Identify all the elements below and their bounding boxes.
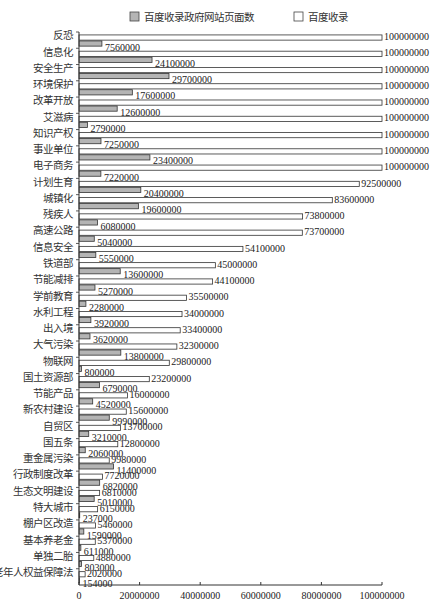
value-label-baidu: 23200000: [151, 373, 191, 384]
bar-baidu: [79, 51, 382, 56]
bar-baidu: [79, 116, 382, 121]
value-label-baidu: 44100000: [215, 275, 255, 286]
value-label-baidu: 100000000: [384, 31, 429, 42]
bar-baidu: [79, 100, 382, 105]
category-label: 反恐: [53, 29, 74, 41]
value-label-baidu: 100000000: [384, 64, 429, 75]
category-label: 大气污染: [33, 338, 74, 350]
bar-baidu: [79, 295, 187, 300]
bar-gov-pages: [79, 350, 121, 355]
bar-baidu: [79, 425, 121, 430]
legend: 百度收录政府网站页面数 百度收录: [130, 11, 348, 23]
category-label: 计划生育: [33, 176, 73, 188]
category-label: 事业单位: [33, 143, 74, 155]
value-label-baidu: 6810000: [102, 487, 137, 498]
category-label: 节能减排: [33, 273, 74, 285]
bar-gov-pages: [79, 187, 141, 192]
bar-gov-pages: [79, 431, 89, 436]
category-label: 重金属污染: [23, 452, 74, 464]
bar-gov-pages: [79, 382, 100, 387]
category-label: 环境保护: [33, 78, 73, 90]
category-label: 基本养老金: [23, 534, 74, 546]
bar-baidu: [79, 458, 109, 463]
bar-gov-pages: [79, 415, 109, 420]
category-label: 物联网: [43, 355, 73, 367]
value-label-baidu: 32300000: [179, 340, 219, 351]
value-label-baidu: 100000000: [384, 96, 429, 107]
category-label: 城镇化: [43, 192, 74, 204]
value-label-baidu: 100000000: [384, 145, 429, 156]
bar-baidu: [79, 149, 382, 154]
category-label: 改革开放: [33, 94, 74, 106]
category-label: 残疾人: [43, 208, 74, 220]
bar-gov-pages: [79, 269, 120, 274]
value-label-baidu: 29800000: [171, 356, 211, 367]
bar-gov-pages: [79, 171, 101, 176]
bar-baidu: [79, 214, 303, 219]
value-label-baidu: 100000000: [384, 47, 429, 58]
x-tick-label: 80000000: [301, 590, 341, 601]
bar-baidu: [79, 67, 382, 72]
category-label: 学前教育: [33, 290, 73, 302]
value-label-baidu: 4880000: [96, 552, 131, 563]
bar-gov-pages: [79, 529, 84, 534]
category-label: 安全生产: [33, 62, 73, 74]
value-label-baidu: 2020000: [87, 568, 122, 579]
bar-gov-pages: [79, 236, 94, 241]
category-label: 国土资源部: [23, 371, 73, 383]
bar-gov-pages: [79, 334, 90, 339]
bar-baidu: [79, 360, 169, 365]
bar-gov-pages: [79, 252, 96, 257]
x-tick-label: 40000000: [180, 590, 220, 601]
bar-gov-pages: [79, 41, 102, 46]
value-label-baidu: 6150000: [100, 503, 135, 514]
legend-swatch-gov-pages: [130, 12, 139, 21]
value-label-baidu: 16000000: [129, 389, 169, 400]
bar-gov-pages: [79, 139, 101, 144]
bar-gov-pages: [79, 285, 95, 290]
bar-gov-pages: [79, 301, 86, 306]
bar-baidu: [79, 328, 180, 333]
bar-baidu: [79, 344, 177, 349]
bar-baidu: [79, 393, 127, 398]
bar-gov-pages: [79, 90, 132, 95]
bar-baidu: [79, 246, 243, 251]
category-label: 特大城市: [33, 501, 73, 513]
bar-gov-pages: [79, 57, 152, 62]
value-label-baidu: 54100000: [245, 243, 285, 254]
bar-baidu: [79, 555, 94, 560]
bar-gov-pages: [79, 204, 138, 209]
x-tick-label: 100000000: [360, 590, 405, 601]
value-label-baidu: 100000000: [384, 161, 429, 172]
bar-gov-pages: [79, 464, 114, 469]
value-label-gov-pages: 154000: [82, 578, 112, 589]
bar-baidu: [79, 311, 182, 316]
value-label-baidu: 33400000: [182, 324, 222, 335]
category-label: 棚户区改造: [23, 517, 74, 529]
bar-baidu: [79, 442, 118, 447]
bar-gov-pages: [79, 399, 93, 404]
category-label: 铁道部: [43, 257, 73, 269]
value-label-baidu: 15600000: [128, 405, 168, 416]
bar-baidu: [79, 572, 85, 577]
value-label-baidu: 100000000: [384, 112, 429, 123]
bar-gov-pages: [79, 448, 85, 453]
category-label: 高速公路: [33, 224, 74, 236]
bar-baidu: [79, 133, 382, 138]
bar-baidu: [79, 523, 96, 528]
category-label: 国五条: [43, 436, 74, 448]
value-label-baidu: 35500000: [189, 291, 229, 302]
category-label: 电子商务: [33, 159, 74, 171]
value-label-baidu: 73800000: [305, 210, 345, 221]
value-label-baidu: 34000000: [184, 308, 224, 319]
value-label-baidu: 9980000: [111, 454, 146, 465]
x-tick-label: 60000000: [241, 590, 281, 601]
category-label: 艾滋病: [43, 111, 74, 123]
bar-baidu: [79, 35, 382, 40]
category-label: 行政制度改革: [13, 468, 73, 480]
bar-baidu: [79, 84, 382, 89]
legend-swatch-baidu: [294, 12, 303, 21]
category-label: 信息化: [43, 46, 74, 58]
bar-baidu: [79, 165, 382, 170]
bar-chart: 百度收录政府网站页面数 百度收录 10000000075600001000000…: [0, 0, 438, 610]
